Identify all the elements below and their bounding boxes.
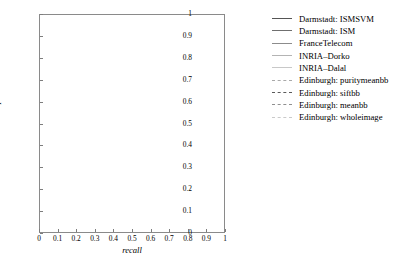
y-tick-mark (40, 58, 43, 59)
x-tick-label: 0.2 (72, 235, 81, 242)
y-tick-mark (40, 14, 43, 15)
x-tick-mark (188, 229, 189, 232)
y-tick-label: 0.1 (183, 207, 192, 214)
chart-figure: 00.10.20.30.40.50.60.70.80.91 00.10.20.3… (0, 0, 419, 267)
y-tick-mark (40, 167, 43, 168)
x-tick-label: 0.4 (109, 235, 118, 242)
legend-label: Edinburgh: puritymeanbb (299, 76, 388, 85)
legend-item[interactable]: FranceTelecom (272, 38, 388, 50)
x-tick-label: 0.7 (165, 235, 174, 242)
y-tick-label: 0.2 (183, 185, 192, 192)
legend-item[interactable]: Edinburgh: siftbb (272, 87, 388, 99)
legend-label: Edinburgh: siftbb (299, 89, 360, 98)
y-tick-mark (40, 189, 43, 190)
x-tick-label: 0.6 (146, 235, 155, 242)
x-tick-mark (169, 229, 170, 232)
legend-label: Darmstadt: ISM (299, 27, 355, 36)
y-tick-label: 0.6 (183, 98, 192, 105)
legend-label: Edinburgh: wholeimage (299, 113, 383, 122)
legend-item[interactable]: Edinburgh: wholeimage (272, 111, 388, 123)
y-tick-mark (40, 102, 43, 103)
legend-item[interactable]: Darmstadt: ISM (272, 25, 388, 37)
x-tick-mark (76, 229, 77, 232)
x-tick-label: 0.1 (53, 235, 62, 242)
y-tick-label: 0.4 (183, 142, 192, 149)
x-tick-mark (206, 229, 207, 232)
legend-label: INRIA–Dorko (299, 52, 350, 61)
legend-item[interactable]: INRIA–Dorko (272, 50, 388, 62)
y-tick-mark (40, 36, 43, 37)
x-tick-label: 0 (37, 235, 41, 242)
y-tick-mark (40, 211, 43, 212)
x-tick-mark (39, 229, 40, 232)
x-tick-mark (58, 229, 59, 232)
y-tick-mark (40, 80, 43, 81)
legend-item[interactable]: Darmstadt: ISMSVM (272, 13, 388, 25)
legend: Darmstadt: ISMSVMDarmstadt: ISMFranceTel… (272, 13, 388, 124)
y-tick-label: 0.3 (183, 164, 192, 171)
x-tick-mark (113, 229, 114, 232)
x-axis-label: recall (39, 246, 225, 255)
x-tick-mark (151, 229, 152, 232)
legend-label: INRIA–Dalal (299, 64, 346, 73)
plot-area (39, 14, 225, 233)
y-tick-mark (40, 124, 43, 125)
x-tick-label: 1 (223, 235, 227, 242)
x-tick-label: 0.8 (183, 235, 192, 242)
y-tick-label: 1 (188, 10, 192, 17)
y-tick-mark (40, 145, 43, 146)
x-tick-mark (95, 229, 96, 232)
x-tick-label: 0.9 (202, 235, 211, 242)
y-axis-label: precision (0, 72, 1, 104)
legend-item[interactable]: Edinburgh: puritymeanbb (272, 74, 388, 86)
y-tick-label: 0.7 (183, 76, 192, 83)
legend-label: Edinburgh: meanbb (299, 101, 368, 110)
y-tick-label: 0.5 (183, 120, 192, 127)
legend-item[interactable]: INRIA–Dalal (272, 62, 388, 74)
x-tick-mark (225, 229, 226, 232)
plot-frame (39, 14, 225, 233)
legend-label: FranceTelecom (299, 39, 352, 48)
legend-label: Darmstadt: ISMSVM (299, 15, 374, 24)
x-tick-mark (132, 229, 133, 232)
x-tick-label: 0.5 (127, 235, 136, 242)
y-tick-label: 0.8 (183, 54, 192, 61)
legend-item[interactable]: Edinburgh: meanbb (272, 99, 388, 111)
x-tick-label: 0.3 (90, 235, 99, 242)
y-tick-label: 0.9 (183, 32, 192, 39)
